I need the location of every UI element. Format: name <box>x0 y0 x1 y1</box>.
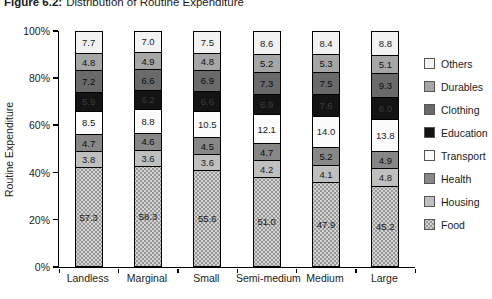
plot-area: 7.74.87.25.98.54.73.857.37.04.96.66.28.8… <box>58 31 415 268</box>
legend-item-transport: Transport <box>424 144 488 167</box>
segment-value-label: 7.7 <box>82 38 95 47</box>
segment-value-label: 55.6 <box>198 214 217 223</box>
bar-marginal: 7.04.96.66.28.84.63.658.3 <box>134 31 162 267</box>
figure: Figure 6.2:Distribution of Routine Expen… <box>0 0 492 299</box>
legend-swatch <box>424 58 435 69</box>
segment-value-label: 4.2 <box>260 165 273 174</box>
segment-value-label: 10.5 <box>198 120 217 129</box>
legend-label: Others <box>441 58 473 70</box>
bar-segment-durables: 5.3 <box>313 54 339 72</box>
segment-value-label: 57.3 <box>79 213 98 222</box>
bar-segment-housing: 4.1 <box>313 165 339 181</box>
bar-segment-transport: 13.8 <box>372 119 398 150</box>
x-category-label: Marginal <box>117 272 176 284</box>
segment-value-label: 4.7 <box>260 148 273 157</box>
segment-value-label: 5.1 <box>379 60 392 69</box>
segment-value-label: 6.6 <box>201 97 214 106</box>
segment-value-label: 4.5 <box>201 142 214 151</box>
legend-label: Health <box>441 173 471 185</box>
bar-segment-education: 8.0 <box>372 97 398 119</box>
bar-segment-health: 4.9 <box>372 151 398 169</box>
segment-value-label: 45.2 <box>376 222 395 231</box>
segment-value-label: 7.0 <box>141 37 154 46</box>
y-tick-label: 20% <box>14 214 50 226</box>
segment-value-label: 4.9 <box>141 57 154 66</box>
x-category-label: Small <box>177 272 236 284</box>
bar-segment-food: 57.3 <box>76 167 102 266</box>
y-tick-mark <box>53 124 58 126</box>
segment-value-label: 51.0 <box>257 217 276 226</box>
figure-title-text: Distribution of Routine Expenditure <box>66 0 244 8</box>
bar-segment-clothing: 7.2 <box>76 70 102 91</box>
bar-segment-transport: 14.0 <box>313 116 339 148</box>
segment-value-label: 7.3 <box>260 79 273 88</box>
bar-segment-food: 58.3 <box>135 166 161 266</box>
bar-segment-durables: 5.1 <box>372 55 398 73</box>
segment-value-label: 4.6 <box>141 137 154 146</box>
y-tick-mark <box>53 30 58 32</box>
bar-medium: 8.45.37.57.614.05.24.147.9 <box>312 31 340 267</box>
segment-value-label: 14.0 <box>317 127 336 136</box>
y-tick-mark <box>53 266 58 268</box>
legend-swatch <box>424 81 435 92</box>
segment-value-label: 8.6 <box>260 39 273 48</box>
bar-segment-education: 7.6 <box>313 94 339 116</box>
segment-value-label: 7.5 <box>201 38 214 47</box>
y-tick-label: 60% <box>14 119 50 131</box>
bar-segment-health: 5.2 <box>313 147 339 165</box>
segment-value-label: 8.5 <box>82 118 95 127</box>
bar-segment-education: 6.2 <box>135 90 161 110</box>
y-tick-mark <box>53 219 58 221</box>
legend-swatch <box>424 127 435 138</box>
legend-label: Durables <box>441 81 483 93</box>
segment-value-label: 6.6 <box>141 76 154 85</box>
bar-segment-clothing: 7.5 <box>313 72 339 94</box>
segment-value-label: 8.4 <box>319 39 332 48</box>
bar-segment-education: 6.6 <box>194 91 220 111</box>
segment-value-label: 13.8 <box>376 131 395 140</box>
legend-swatch <box>424 219 435 230</box>
segment-value-label: 8.8 <box>141 117 154 126</box>
legend-swatch <box>424 173 435 184</box>
x-category-label: Medium <box>295 272 354 284</box>
bar-small: 7.54.86.96.610.54.53.655.6 <box>193 31 221 267</box>
bar-segment-durables: 4.8 <box>194 53 220 70</box>
bar-segment-housing: 3.6 <box>194 154 220 170</box>
segment-value-label: 4.8 <box>82 58 95 67</box>
bar-segment-others: 8.8 <box>372 32 398 55</box>
segment-value-label: 5.2 <box>319 152 332 161</box>
bar-segment-education: 6.9 <box>254 94 280 115</box>
segment-value-label: 7.5 <box>319 79 332 88</box>
bar-segment-durables: 4.9 <box>135 52 161 70</box>
bar-landless: 7.74.87.25.98.54.73.857.3 <box>75 31 103 267</box>
bar-segment-others: 7.0 <box>135 32 161 52</box>
legend-label: Clothing <box>441 104 480 116</box>
y-tick-label: 80% <box>14 72 50 84</box>
segment-value-label: 6.9 <box>260 100 273 109</box>
legend-item-education: Education <box>424 121 488 144</box>
legend-label: Food <box>441 219 465 231</box>
bar-semi-medium: 8.65.27.36.912.14.74.251.0 <box>253 31 281 267</box>
legend-swatch <box>424 104 435 115</box>
segment-value-label: 6.9 <box>201 76 214 85</box>
legend-swatch <box>424 150 435 161</box>
bar-segment-clothing: 6.9 <box>194 70 220 91</box>
legend-item-housing: Housing <box>424 190 488 213</box>
segment-value-label: 3.8 <box>82 155 95 164</box>
x-category-label: Semi-medium <box>236 272 295 284</box>
legend-item-others: Others <box>424 52 488 75</box>
segment-value-label: 3.6 <box>141 154 154 163</box>
bar-segment-transport: 10.5 <box>194 111 220 137</box>
bar-segment-health: 4.5 <box>194 137 220 154</box>
y-tick-label: 100% <box>14 25 50 37</box>
segment-value-label: 7.2 <box>82 77 95 86</box>
bar-segment-transport: 8.5 <box>76 111 102 134</box>
segment-value-label: 4.8 <box>379 173 392 182</box>
y-tick-mark <box>53 172 58 174</box>
segment-value-label: 4.7 <box>82 139 95 148</box>
bar-segment-health: 4.7 <box>254 143 280 160</box>
segment-value-label: 4.1 <box>319 170 332 179</box>
segment-value-label: 4.9 <box>379 156 392 165</box>
legend-item-health: Health <box>424 167 488 190</box>
segment-value-label: 3.6 <box>201 158 214 167</box>
